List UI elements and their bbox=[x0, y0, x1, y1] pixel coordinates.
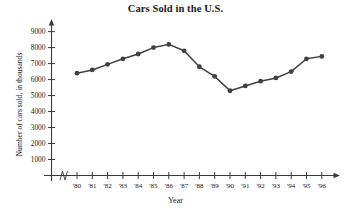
x-tick-label: '94 bbox=[287, 182, 296, 190]
y-tick-label: 7000 bbox=[31, 59, 46, 68]
data-point bbox=[151, 45, 156, 50]
data-point bbox=[75, 71, 80, 76]
data-point bbox=[182, 48, 187, 53]
data-point bbox=[166, 42, 171, 47]
data-point bbox=[228, 88, 233, 93]
data-point bbox=[304, 56, 309, 61]
x-tick-label: '95 bbox=[302, 182, 311, 190]
x-tick-label: '83 bbox=[119, 182, 128, 190]
y-tick-label: 1000 bbox=[31, 155, 46, 164]
data-point bbox=[105, 62, 110, 67]
data-point bbox=[274, 76, 279, 81]
axes bbox=[44, 19, 340, 181]
x-axis-arrow-icon bbox=[334, 173, 341, 178]
data-point bbox=[243, 84, 248, 89]
y-tick-label: 8000 bbox=[31, 43, 46, 52]
x-tick-label: '87 bbox=[180, 182, 189, 190]
y-axis-ticks: 100020003000400050006000700080009000 bbox=[31, 27, 55, 164]
data-point bbox=[121, 56, 126, 61]
line-chart: Cars Sold in the U.S. Number of cars sol… bbox=[0, 0, 351, 215]
y-axis-arrow-icon bbox=[49, 19, 54, 26]
x-tick-label: '91 bbox=[241, 182, 250, 190]
x-tick-label: '90 bbox=[226, 182, 235, 190]
x-tick-label: '96 bbox=[318, 182, 327, 190]
y-tick-label: 9000 bbox=[31, 27, 46, 36]
x-tick-label: '81 bbox=[88, 182, 97, 190]
x-tick-label: '82 bbox=[103, 182, 112, 190]
data-points bbox=[75, 42, 325, 93]
data-point bbox=[212, 74, 217, 79]
x-tick-label: '88 bbox=[195, 182, 204, 190]
x-tick-label: '80 bbox=[73, 182, 82, 190]
data-point bbox=[319, 54, 324, 59]
data-point bbox=[289, 69, 294, 74]
x-tick-label: '92 bbox=[256, 182, 265, 190]
x-tick-label: '86 bbox=[165, 182, 174, 190]
y-tick-label: 6000 bbox=[31, 75, 46, 84]
data-point bbox=[197, 64, 202, 69]
x-tick-label: '93 bbox=[272, 182, 281, 190]
x-axis-ticks: '80'81'82'83'84'85'86'87'88'89'90'91'92'… bbox=[73, 172, 327, 190]
x-tick-label: '89 bbox=[211, 182, 220, 190]
y-tick-label: 2000 bbox=[31, 139, 46, 148]
y-tick-label: 3000 bbox=[31, 123, 46, 132]
y-tick-label: 4000 bbox=[31, 107, 46, 116]
x-tick-label: '84 bbox=[134, 182, 143, 190]
x-axis-break-icon bbox=[60, 171, 68, 180]
x-tick-label: '85 bbox=[149, 182, 158, 190]
plot-area: 100020003000400050006000700080009000 '80… bbox=[0, 0, 351, 215]
data-point bbox=[90, 68, 95, 73]
data-point bbox=[136, 52, 141, 57]
data-point bbox=[258, 79, 263, 84]
y-tick-label: 5000 bbox=[31, 91, 46, 100]
